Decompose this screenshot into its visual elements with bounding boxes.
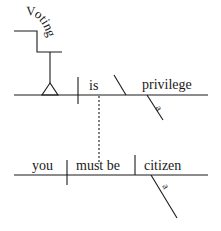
subject-you: you bbox=[32, 158, 53, 173]
modifier-a-1: a bbox=[153, 103, 165, 113]
gerund-voting: Voting bbox=[26, 3, 59, 39]
verb-is: is bbox=[89, 78, 98, 93]
sentence-diagram: Voting is privilege a you must be citize… bbox=[0, 0, 221, 231]
predicate-citizen: citizen bbox=[144, 158, 181, 173]
predicate-privilege: privilege bbox=[142, 77, 192, 92]
pedestal-fork bbox=[42, 83, 58, 95]
modifier-a-2: a bbox=[160, 181, 172, 191]
complement-divider bbox=[114, 75, 126, 95]
gerund-pedestal bbox=[14, 31, 62, 95]
verb-must-be: must be bbox=[76, 158, 120, 173]
modifier-line-2 bbox=[151, 175, 177, 218]
